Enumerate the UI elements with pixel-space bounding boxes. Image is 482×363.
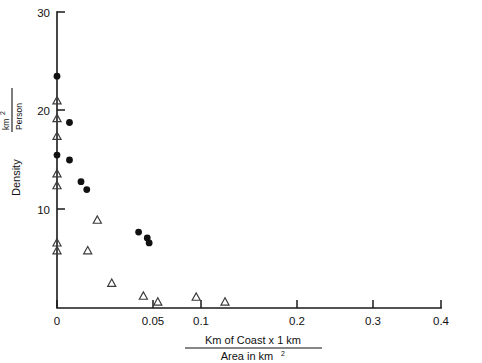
y-axis-title: Density: [10, 159, 22, 196]
data-point-filled-circle: [135, 229, 142, 236]
ytick-label-30: 30: [37, 7, 50, 19]
y-axis-fraction-denominator: Person: [14, 103, 24, 130]
data-markers: [53, 73, 229, 305]
data-point-open-triangle: [221, 298, 229, 305]
data-point-open-triangle: [154, 298, 162, 305]
ytick-label-10: 10: [37, 204, 50, 216]
x-axis-title: Km of Coast x 1 km Area in km 2: [185, 334, 322, 362]
data-point-open-triangle: [192, 293, 200, 300]
axis-lines: [57, 12, 441, 308]
xtick-label-04: 0.4: [433, 315, 450, 327]
data-point-filled-circle: [83, 186, 90, 193]
data-point-filled-circle: [54, 73, 61, 80]
xtick-label-005: 0.05: [142, 315, 164, 327]
scatter-plot-figure: 30 20 10 0 0.05 0.1 0.2 0.3 0.4 Km of Co…: [0, 0, 482, 363]
data-point-filled-circle: [54, 152, 61, 159]
x-axis-title-denominator-superscript: 2: [281, 350, 285, 357]
xtick-label-02: 0.2: [289, 315, 305, 327]
data-point-filled-circle: [66, 119, 73, 126]
x-tick-labels: 0 0.05 0.1 0.2 0.3 0.4: [54, 315, 450, 327]
x-axis-title-denominator: Area in km: [221, 350, 274, 362]
data-point-open-triangle: [139, 292, 147, 299]
data-point-filled-circle: [66, 157, 73, 164]
data-point-open-triangle: [93, 216, 101, 223]
y-axis-title-fraction: km 2 Person: [0, 88, 24, 132]
xtick-label-0: 0: [54, 315, 60, 327]
y-axis-fraction-numerator: km: [1, 119, 11, 130]
y-axis-fraction-numerator-superscript: 2: [0, 111, 6, 115]
x-axis-title-numerator: Km of Coast x 1 km: [205, 334, 301, 346]
data-point-filled-circle: [146, 239, 153, 246]
data-point-open-triangle: [108, 279, 116, 286]
axis-frame: [57, 12, 441, 308]
y-axis-title-main: Density: [10, 159, 22, 196]
xtick-label-03: 0.3: [365, 315, 381, 327]
data-point-open-triangle: [84, 246, 92, 253]
data-point-filled-circle: [78, 178, 85, 185]
xtick-label-01: 0.1: [193, 315, 209, 327]
y-tick-labels: 30 20 10: [37, 7, 50, 216]
plot-canvas: 30 20 10 0 0.05 0.1 0.2 0.3 0.4 Km of Co…: [0, 0, 482, 363]
ytick-label-20: 20: [37, 105, 50, 117]
